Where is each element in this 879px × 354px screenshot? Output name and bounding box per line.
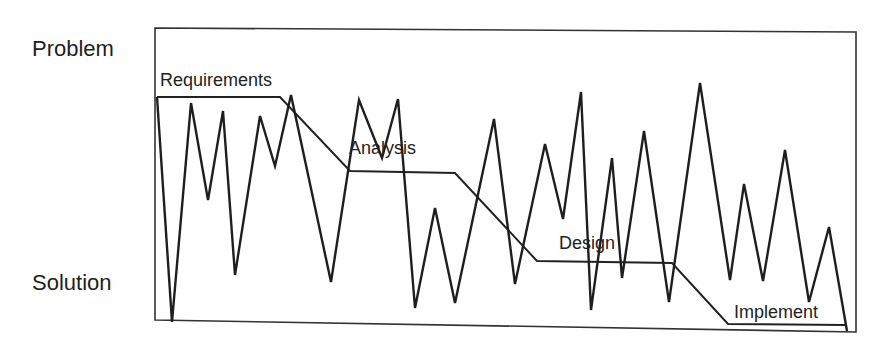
phase-label-analysis: Analysis (349, 138, 416, 158)
phase-label-implement: Implement (734, 302, 818, 322)
actual-process-zigzag-line (157, 83, 847, 331)
phase-label-requirements: Requirements (160, 70, 272, 90)
waterfall-staircase-line (157, 97, 845, 325)
phase-label-design: Design (559, 233, 615, 253)
process-diagram: RequirementsAnalysisDesignImplement (0, 0, 879, 354)
